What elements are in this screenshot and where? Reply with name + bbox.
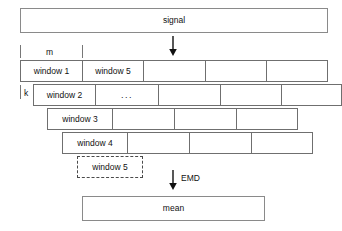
window-cell[interactable] <box>189 132 251 154</box>
window-row-2: window 2 ... <box>33 84 342 106</box>
pending-window-label: window 5 <box>92 162 127 172</box>
window-cell[interactable] <box>220 84 281 106</box>
window-cell[interactable] <box>174 108 236 130</box>
m-measure-label: m <box>46 47 53 57</box>
mean-box: mean <box>82 196 265 221</box>
window-cell[interactable] <box>236 108 298 130</box>
window-cell-label: window 1 <box>34 67 69 76</box>
window-cell[interactable] <box>127 132 189 154</box>
window-row-4: window 4 <box>62 132 313 154</box>
window-cell[interactable] <box>158 84 220 106</box>
m-measure-tick-left <box>20 45 21 58</box>
m-measure-tick-right <box>82 45 83 58</box>
window-cell-label: window 3 <box>62 115 97 124</box>
window-cell-label: window 2 <box>47 91 82 100</box>
down-arrow-icon <box>168 170 178 190</box>
window-cell[interactable] <box>143 60 205 82</box>
down-arrow-icon <box>168 36 178 56</box>
window-cell[interactable] <box>266 60 328 82</box>
window-cell-label: window 4 <box>77 139 112 148</box>
signal-box-label: signal <box>163 16 185 25</box>
window-cell-label: window 5 <box>95 67 130 76</box>
window-cell-label: ... <box>121 91 133 100</box>
emd-arrow-label: EMD <box>181 173 200 183</box>
window-cell[interactable] <box>281 84 342 106</box>
window-cell[interactable]: window 1 <box>20 60 82 82</box>
mean-box-label: mean <box>163 204 184 213</box>
window-cell[interactable]: window 5 <box>82 60 143 82</box>
window-cell[interactable] <box>205 60 266 82</box>
window-cell[interactable] <box>112 108 174 130</box>
window-row-1: window 1 window 5 <box>20 60 328 82</box>
signal-box: signal <box>20 8 328 33</box>
pending-window-box[interactable]: window 5 <box>77 156 143 178</box>
k-measure-tick-left <box>20 85 21 99</box>
window-cell[interactable]: window 2 <box>33 84 95 106</box>
k-measure-label: k <box>24 88 28 98</box>
sliding-window-emd-diagram: signal m window 1 window 5 k wi <box>0 0 342 231</box>
window-cell[interactable]: window 4 <box>62 132 127 154</box>
window-cell[interactable]: ... <box>95 84 158 106</box>
window-row-3: window 3 <box>47 108 328 130</box>
window-cell[interactable]: window 3 <box>47 108 112 130</box>
window-cell[interactable] <box>251 132 313 154</box>
